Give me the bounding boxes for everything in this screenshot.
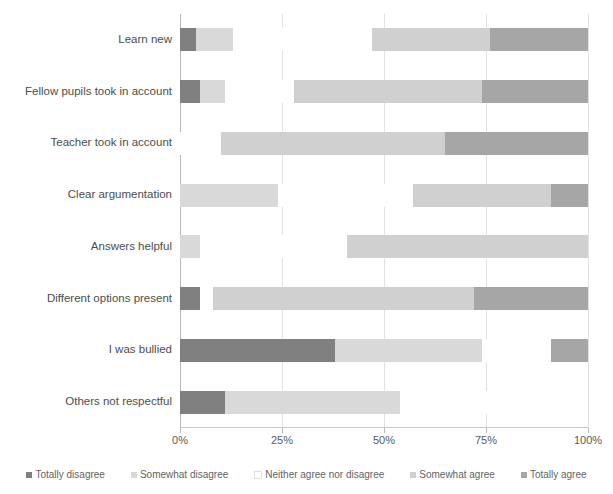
chart-legend: Totally disagreeSomewhat disagreeNeither… — [0, 470, 613, 480]
tick-mark — [180, 428, 181, 433]
bar-segment[interactable] — [221, 132, 445, 155]
gridline-100% — [588, 14, 589, 428]
bar-row[interactable] — [180, 132, 588, 155]
bar-row[interactable] — [180, 391, 588, 414]
bar-segment[interactable] — [213, 287, 474, 310]
bar-segment[interactable] — [180, 28, 196, 51]
legend-swatch-icon — [131, 472, 137, 478]
tick-label: 100% — [574, 434, 602, 446]
bar-segment[interactable] — [225, 391, 400, 414]
category-label: Learn new — [0, 34, 172, 46]
value-axis-line — [180, 14, 181, 428]
bar-segment[interactable] — [278, 184, 413, 207]
bar-segment[interactable] — [180, 80, 200, 103]
category-label: Different options present — [0, 293, 172, 305]
category-label: I was bullied — [0, 344, 172, 356]
bar-segment[interactable] — [474, 287, 588, 310]
bar-segment[interactable] — [180, 287, 200, 310]
legend-item[interactable]: Totally disagree — [26, 470, 104, 480]
tick-label: 75% — [475, 434, 497, 446]
bar-segment[interactable] — [413, 184, 552, 207]
bar-segment[interactable] — [200, 235, 347, 258]
bar-segment[interactable] — [200, 80, 224, 103]
bar-segment[interactable] — [196, 28, 233, 51]
bar-segment[interactable] — [400, 391, 588, 414]
bar-segment[interactable] — [233, 28, 372, 51]
bar-segment[interactable] — [180, 132, 221, 155]
category-label: Teacher took in account — [0, 137, 172, 149]
bar-row[interactable] — [180, 184, 588, 207]
legend-swatch-icon — [410, 472, 416, 478]
legend-label: Neither agree nor disagree — [265, 470, 384, 480]
tick-label: 50% — [373, 434, 395, 446]
bar-row[interactable] — [180, 80, 588, 103]
legend-item[interactable]: Somewhat agree — [410, 470, 495, 480]
legend-swatch-icon — [26, 472, 32, 478]
legend-label: Totally agree — [530, 470, 587, 480]
bar-segment[interactable] — [551, 184, 588, 207]
gridline-75% — [486, 14, 487, 428]
bar-segment[interactable] — [180, 391, 225, 414]
legend-swatch-icon — [521, 472, 527, 478]
bar-segment[interactable] — [490, 28, 588, 51]
tick-mark — [486, 428, 487, 433]
legend-item[interactable]: Somewhat disagree — [131, 470, 228, 480]
category-label: Answers helpful — [0, 241, 172, 253]
tick-mark — [384, 428, 385, 433]
bar-segment[interactable] — [180, 339, 335, 362]
legend-label: Somewhat disagree — [140, 470, 228, 480]
bar-row[interactable] — [180, 28, 588, 51]
bar-row[interactable] — [180, 287, 588, 310]
bar-segment[interactable] — [335, 339, 482, 362]
bar-segment[interactable] — [482, 339, 551, 362]
bar-segment[interactable] — [200, 287, 212, 310]
legend-item[interactable]: Neither agree nor disagree — [254, 470, 384, 480]
legend-label: Somewhat agree — [419, 470, 495, 480]
stacked-bar-chart: Learn newFellow pupils took in accountTe… — [0, 0, 613, 494]
bar-segment[interactable] — [347, 235, 588, 258]
bar-segment[interactable] — [482, 80, 588, 103]
bar-segment[interactable] — [551, 339, 588, 362]
tick-label: 25% — [271, 434, 293, 446]
bar-segment[interactable] — [180, 235, 200, 258]
category-label: Clear argumentation — [0, 189, 172, 201]
tick-mark — [282, 428, 283, 433]
bar-row[interactable] — [180, 339, 588, 362]
plot-area — [180, 14, 588, 428]
legend-label: Totally disagree — [35, 470, 104, 480]
category-label: Others not respectful — [0, 396, 172, 408]
bar-segment[interactable] — [180, 184, 278, 207]
gridline-25% — [282, 14, 283, 428]
tick-mark — [588, 428, 589, 433]
bar-row[interactable] — [180, 235, 588, 258]
legend-swatch-icon — [254, 471, 262, 479]
tick-label: 0% — [172, 434, 188, 446]
legend-item[interactable]: Totally agree — [521, 470, 587, 480]
bar-segment[interactable] — [294, 80, 482, 103]
bar-segment[interactable] — [225, 80, 294, 103]
bar-segment[interactable] — [445, 132, 588, 155]
category-label: Fellow pupils took in account — [0, 86, 172, 98]
gridline-50% — [384, 14, 385, 428]
bar-segment[interactable] — [372, 28, 490, 51]
